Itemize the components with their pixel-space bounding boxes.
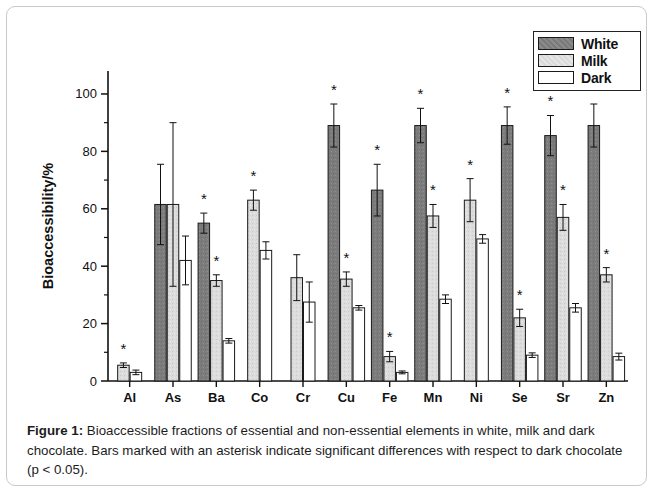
significance-asterisk: * bbox=[331, 81, 337, 98]
bar-white-Cu bbox=[328, 126, 340, 381]
significance-asterisk: * bbox=[120, 340, 126, 357]
x-axis-category-label: Se bbox=[512, 390, 528, 405]
bar-white-Sr bbox=[545, 136, 557, 381]
significance-asterisk: * bbox=[343, 249, 349, 266]
x-axis-category-label: Cr bbox=[296, 390, 310, 405]
significance-asterisk: * bbox=[467, 156, 473, 173]
x-axis-category-label: Al bbox=[123, 390, 136, 405]
bar-dark-Co bbox=[260, 250, 272, 381]
y-axis-tick-label: 40 bbox=[83, 259, 97, 274]
figure-caption: Figure 1: Bioaccessible fractions of ess… bbox=[27, 421, 633, 480]
bar-dark-Sr bbox=[570, 308, 582, 381]
legend-item-white: White bbox=[538, 35, 636, 52]
y-axis-tick-label: 0 bbox=[90, 374, 97, 389]
x-axis-category-label: Fe bbox=[382, 390, 397, 405]
y-axis-title: Bioaccessibility/% bbox=[40, 163, 56, 290]
x-axis-category-label: Sr bbox=[556, 390, 570, 405]
bar-dark-Ba bbox=[223, 341, 235, 381]
y-axis-tick-label: 100 bbox=[75, 86, 97, 101]
bar-milk-Sr bbox=[557, 217, 569, 381]
bar-milk-Cu bbox=[341, 279, 353, 381]
legend-swatch-milk bbox=[538, 54, 574, 67]
x-axis-category-label: Ni bbox=[470, 390, 483, 405]
figure-card: 020406080100 ***************** AlAsBaCoC… bbox=[6, 6, 647, 486]
figure-caption-body: Bioaccessible fractions of essential and… bbox=[27, 423, 622, 477]
x-axis-category-labels: AlAsBaCoCrCuFeMnNiSeSrZn bbox=[123, 390, 614, 405]
x-axis-category-label: Cu bbox=[338, 390, 355, 405]
legend-swatch-white bbox=[538, 37, 574, 50]
y-axis-tick-label: 20 bbox=[83, 316, 97, 331]
bar-milk-Zn bbox=[601, 275, 613, 381]
x-axis-category-label: Mn bbox=[424, 390, 443, 405]
legend-label-white: White bbox=[581, 37, 618, 51]
significance-asterisk: * bbox=[250, 167, 256, 184]
bar-dark-Mn bbox=[440, 299, 452, 381]
significance-asterisk: * bbox=[548, 92, 554, 109]
bar-milk-Co bbox=[248, 200, 259, 381]
significance-asterisk: * bbox=[430, 181, 436, 198]
bar-dark-Ni bbox=[477, 239, 489, 381]
chart-bars bbox=[118, 104, 625, 381]
legend-swatch-dark bbox=[538, 71, 574, 84]
bar-white-Mn bbox=[415, 126, 427, 381]
figure-caption-prefix: Figure 1: bbox=[27, 423, 83, 438]
legend-item-milk: Milk bbox=[538, 52, 636, 69]
x-axis-category-label: Ba bbox=[208, 390, 225, 405]
significance-asterisk: * bbox=[387, 328, 393, 345]
legend-item-dark: Dark bbox=[538, 69, 636, 86]
bar-white-Se bbox=[501, 126, 513, 381]
y-axis-tick-label: 80 bbox=[83, 144, 97, 159]
legend-label-dark: Dark bbox=[581, 71, 611, 85]
bar-milk-Ni bbox=[464, 200, 476, 381]
significance-asterisk: * bbox=[560, 181, 566, 198]
x-axis-category-label: As bbox=[165, 390, 182, 405]
y-axis-tick-label: 60 bbox=[83, 201, 97, 216]
legend-label-milk: Milk bbox=[581, 54, 607, 68]
bar-milk-Mn bbox=[427, 216, 439, 381]
x-axis-category-label: Co bbox=[251, 390, 268, 405]
chart-legend: White Milk Dark bbox=[533, 31, 641, 91]
bar-milk-Se bbox=[514, 318, 526, 381]
y-axis-title-text: Bioaccessibility/% bbox=[40, 163, 56, 290]
bar-milk-Ba bbox=[211, 281, 223, 381]
bar-dark-Cu bbox=[353, 308, 365, 381]
bar-dark-Se bbox=[526, 355, 538, 381]
significance-asterisk: * bbox=[201, 190, 207, 207]
significance-asterisk: * bbox=[504, 84, 510, 101]
significance-asterisk: * bbox=[603, 245, 609, 262]
significance-asterisk: * bbox=[374, 141, 380, 158]
bar-white-Fe bbox=[371, 190, 383, 381]
bar-white-Ba bbox=[198, 223, 210, 381]
significance-asterisk: * bbox=[213, 252, 219, 269]
significance-asterisk: * bbox=[517, 286, 523, 303]
x-axis-category-label: Zn bbox=[598, 390, 614, 405]
significance-asterisk: * bbox=[418, 85, 424, 102]
bar-white-Zn bbox=[588, 126, 600, 381]
